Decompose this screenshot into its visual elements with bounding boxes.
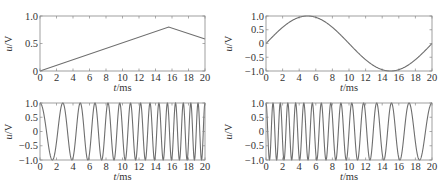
chart-sine: 02468101214161820−1.0−0.500.51.0t/msu/V <box>222 0 445 93</box>
x-tick-label: 8 <box>330 72 335 83</box>
x-tick-label: 4 <box>70 161 76 172</box>
chart-chirp-up: 02468101214161820−1.0−0.500.51.0t/msu/V <box>0 90 222 186</box>
x-tick-label: 16 <box>394 72 405 83</box>
y-tick-label: −1.0 <box>245 66 264 77</box>
x-tick-label: 6 <box>87 161 92 172</box>
x-tick-label: 20 <box>427 72 438 83</box>
y-tick-label: 1.0 <box>251 98 264 109</box>
x-tick-label: 0 <box>37 72 42 83</box>
x-tick-label: 6 <box>313 161 318 172</box>
y-tick-label: 0.5 <box>25 38 38 49</box>
x-tick-label: 8 <box>103 161 108 172</box>
x-tick-label: 0 <box>263 72 268 83</box>
y-tick-label: 1.0 <box>25 11 38 22</box>
x-tick-label: 0 <box>263 161 268 172</box>
y-axis-label: u/V <box>223 35 234 51</box>
x-tick-label: 12 <box>360 72 371 83</box>
x-tick-label: 6 <box>87 72 92 83</box>
x-tick-label: 18 <box>410 72 421 83</box>
data-line <box>266 103 432 160</box>
x-axis-label: t/ms <box>340 171 358 182</box>
x-tick-label: 14 <box>377 161 388 172</box>
chart-triangle: 0246810121416182000.51.0t/msu/V <box>0 0 222 93</box>
x-tick-label: 12 <box>134 72 145 83</box>
x-tick-label: 8 <box>103 72 108 83</box>
y-tick-label: −1.0 <box>245 155 264 166</box>
x-tick-label: 16 <box>394 161 405 172</box>
x-tick-label: 4 <box>297 161 303 172</box>
x-axis-label: t/ms <box>113 171 131 182</box>
x-tick-label: 18 <box>183 161 194 172</box>
x-tick-label: 0 <box>37 161 42 172</box>
x-tick-label: 14 <box>150 72 161 83</box>
x-tick-label: 2 <box>280 161 285 172</box>
x-tick-label: 6 <box>313 72 318 83</box>
x-tick-label: 2 <box>280 72 285 83</box>
x-tick-label: 4 <box>297 72 303 83</box>
y-tick-label: 1.0 <box>25 98 38 109</box>
data-line <box>266 16 432 71</box>
x-tick-label: 12 <box>360 161 371 172</box>
x-tick-label: 16 <box>167 161 178 172</box>
y-tick-label: −0.5 <box>19 140 38 151</box>
x-tick-label: 12 <box>134 161 145 172</box>
y-tick-label: 0 <box>259 38 264 49</box>
y-tick-label: −0.5 <box>245 52 264 63</box>
y-tick-label: 1.0 <box>251 11 264 22</box>
y-tick-label: −1.0 <box>19 155 38 166</box>
y-tick-label: 0 <box>33 126 38 137</box>
x-tick-label: 4 <box>70 72 76 83</box>
y-tick-label: 0.5 <box>25 112 38 123</box>
y-tick-label: 0 <box>259 126 264 137</box>
x-tick-label: 8 <box>330 161 335 172</box>
data-line <box>40 103 205 160</box>
y-tick-label: 0 <box>33 66 38 77</box>
y-axis-label: u/V <box>223 123 234 139</box>
x-tick-label: 14 <box>377 72 388 83</box>
y-axis-label: u/V <box>3 35 14 51</box>
x-tick-label: 20 <box>200 161 211 172</box>
x-tick-label: 20 <box>427 161 438 172</box>
x-tick-label: 14 <box>150 161 161 172</box>
x-tick-label: 20 <box>200 72 211 83</box>
y-axis-label: u/V <box>3 123 14 139</box>
y-tick-label: 0.5 <box>251 112 264 123</box>
x-tick-label: 18 <box>183 72 194 83</box>
y-tick-label: −0.5 <box>245 140 264 151</box>
y-tick-label: 0.5 <box>251 24 264 35</box>
x-tick-label: 16 <box>167 72 178 83</box>
chart-chirp-down: 02468101214161820−1.0−0.500.51.0t/msu/V <box>222 90 445 186</box>
x-tick-label: 18 <box>410 161 421 172</box>
x-tick-label: 2 <box>54 161 59 172</box>
data-line <box>40 27 205 71</box>
x-tick-label: 2 <box>54 72 59 83</box>
